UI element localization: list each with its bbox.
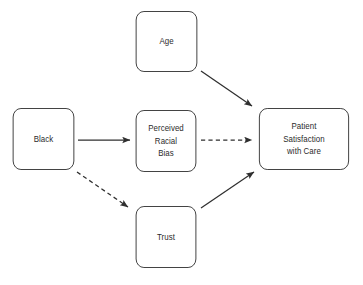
edge-black-to-trust bbox=[77, 172, 128, 207]
node-patient-satisfaction-with-care[interactable]: PatientSatisfactionwith Care bbox=[259, 108, 349, 170]
edge-trust-to-satisfaction bbox=[201, 172, 254, 208]
node-black[interactable]: Black bbox=[13, 108, 75, 170]
node-age[interactable]: Age bbox=[136, 11, 198, 72]
node-label-line: Black bbox=[34, 133, 54, 146]
node-label-line: Patient bbox=[292, 120, 317, 133]
node-label-line: Satisfaction bbox=[283, 133, 324, 146]
node-label-line: Racial bbox=[155, 135, 177, 148]
node-label-line: Bias bbox=[158, 147, 174, 160]
node-label-line: Age bbox=[159, 35, 173, 48]
diagram-canvas: Age Black PerceivedRacialBias PatientSat… bbox=[0, 0, 363, 285]
node-perceived-racial-bias[interactable]: PerceivedRacialBias bbox=[136, 110, 197, 172]
node-label-line: Perceived bbox=[148, 122, 184, 135]
node-label-line: with Care bbox=[287, 145, 321, 158]
node-label-line: Trust bbox=[157, 231, 175, 244]
node-trust[interactable]: Trust bbox=[136, 206, 197, 268]
edge-age-to-satisfaction bbox=[201, 71, 252, 106]
